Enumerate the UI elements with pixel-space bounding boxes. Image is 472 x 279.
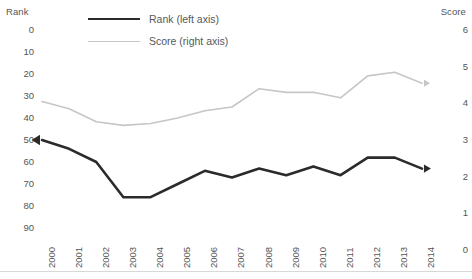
series-start-arrow-icon-rank bbox=[32, 135, 41, 145]
x-axis-tick-2001: 2001 bbox=[74, 247, 84, 268]
x-axis-tick-2008: 2008 bbox=[264, 247, 274, 268]
line-chart: Rank Score 0102030405060708090 6543210 2… bbox=[0, 0, 472, 279]
x-axis-tick-2002: 2002 bbox=[101, 247, 111, 268]
legend-item-score: Score (right axis) bbox=[88, 30, 338, 52]
x-axis-tick-2007: 2007 bbox=[236, 247, 246, 268]
series-end-arrow-icon-rank bbox=[424, 164, 431, 172]
x-axis-tick-2012: 2012 bbox=[372, 247, 382, 268]
x-axis-tick-2000: 2000 bbox=[47, 247, 57, 268]
x-axis-tick-2014: 2014 bbox=[426, 247, 436, 268]
x-axis-tick-2011: 2011 bbox=[345, 248, 355, 268]
rank-line-swatch-icon bbox=[88, 18, 140, 20]
series-line-score bbox=[42, 72, 422, 125]
score-line-swatch-icon bbox=[88, 41, 140, 42]
x-axis-tick-2004: 2004 bbox=[155, 247, 165, 268]
x-axis-tick-2003: 2003 bbox=[128, 247, 138, 268]
bottom-rule bbox=[0, 271, 472, 272]
x-axis-tick-2009: 2009 bbox=[291, 247, 301, 268]
series-line-rank bbox=[42, 140, 422, 197]
series-end-arrow-icon-score bbox=[424, 80, 430, 87]
legend-item-rank: Rank (left axis) bbox=[88, 8, 338, 30]
x-axis-tick-2010: 2010 bbox=[318, 247, 328, 268]
x-axis-tick-2006: 2006 bbox=[209, 247, 219, 268]
x-axis-tick-2005: 2005 bbox=[182, 247, 192, 268]
legend-label-rank: Rank (left axis) bbox=[149, 13, 219, 25]
x-axis-tick-2013: 2013 bbox=[399, 247, 409, 268]
legend-label-score: Score (right axis) bbox=[149, 35, 228, 47]
chart-legend: Rank (left axis) Score (right axis) bbox=[88, 8, 338, 52]
